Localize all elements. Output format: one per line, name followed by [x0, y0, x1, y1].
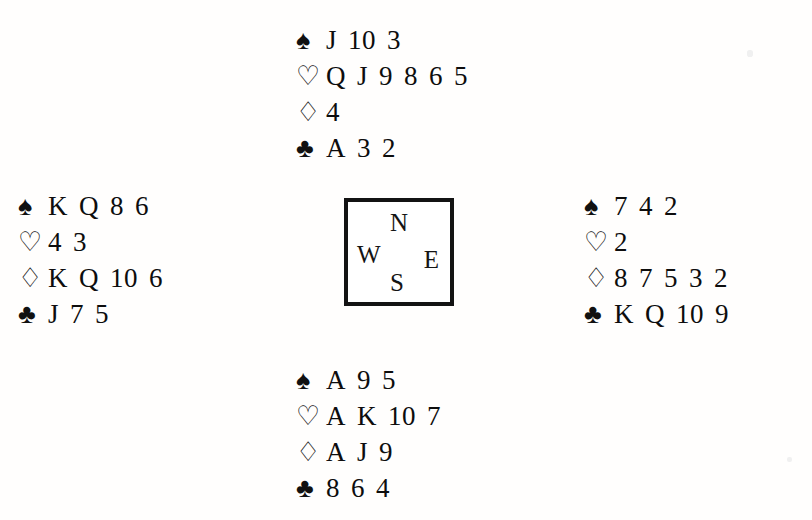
card-rank: 6	[149, 260, 163, 296]
club-suit-icon: ♣	[296, 130, 326, 166]
hand-north: ♠ J103 ♡ QJ9865 ♢ 4 ♣ A32	[296, 22, 468, 166]
card-rank: Q	[326, 58, 346, 94]
hand-north-clubs-ranks: A32	[326, 130, 396, 166]
card-rank: J	[48, 296, 59, 332]
card-rank: 4	[376, 470, 390, 506]
diamond-suit-icon: ♢	[296, 94, 326, 130]
card-rank: 8	[326, 470, 340, 506]
card-rank: 5	[95, 296, 109, 332]
scan-artifact	[747, 50, 753, 57]
card-rank: 9	[379, 434, 393, 470]
scan-artifact	[787, 457, 792, 462]
hand-east: ♠ 742 ♡ 2 ♢ 87532 ♣ KQ109	[584, 188, 729, 332]
card-rank: 9	[357, 362, 371, 398]
hand-south: ♠ A95 ♡ AK107 ♢ AJ9 ♣ 864	[296, 362, 441, 506]
hand-west-diamonds-row: ♢ KQ106	[18, 260, 163, 296]
hand-east-clubs-ranks: KQ109	[614, 296, 729, 332]
diamond-suit-icon: ♢	[18, 260, 48, 296]
hand-south-clubs-ranks: 864	[326, 470, 390, 506]
bridge-deal-diagram: ♠ J103 ♡ QJ9865 ♢ 4 ♣ A32 ♠ KQ86 ♡ 43 ♢ …	[0, 0, 812, 520]
card-rank: K	[357, 398, 377, 434]
card-rank: 4	[639, 188, 653, 224]
compass-east-label: E	[424, 247, 439, 272]
card-rank: A	[326, 434, 346, 470]
heart-suit-icon: ♡	[18, 224, 48, 260]
hand-east-clubs-row: ♣ KQ109	[584, 296, 729, 332]
card-rank: 8	[404, 58, 418, 94]
card-rank: 2	[614, 224, 628, 260]
card-rank: 5	[454, 58, 468, 94]
compass-south-label: S	[390, 270, 404, 295]
diamond-suit-icon: ♢	[296, 434, 326, 470]
card-rank: 9	[715, 296, 729, 332]
card-rank: 7	[70, 296, 84, 332]
card-rank: 3	[357, 130, 371, 166]
hand-south-diamonds-row: ♢ AJ9	[296, 434, 441, 470]
card-rank: 2	[714, 260, 728, 296]
hand-west-spades-ranks: KQ86	[48, 188, 149, 224]
hand-west-clubs-row: ♣ J75	[18, 296, 163, 332]
card-rank: 6	[135, 188, 149, 224]
diamond-suit-icon: ♢	[584, 260, 614, 296]
hand-north-spades-ranks: J103	[326, 22, 401, 58]
card-rank: 5	[382, 362, 396, 398]
hand-west-spades-row: ♠ KQ86	[18, 188, 163, 224]
card-rank: 8	[614, 260, 628, 296]
hand-west-diamonds-ranks: KQ106	[48, 260, 163, 296]
hand-east-diamonds-ranks: 87532	[614, 260, 728, 296]
club-suit-icon: ♣	[18, 296, 48, 332]
compass-north-label: N	[390, 210, 408, 235]
hand-east-diamonds-row: ♢ 87532	[584, 260, 729, 296]
heart-suit-icon: ♡	[296, 58, 326, 94]
hand-south-diamonds-ranks: AJ9	[326, 434, 393, 470]
card-rank: 6	[429, 58, 443, 94]
hand-south-clubs-row: ♣ 864	[296, 470, 441, 506]
spade-suit-icon: ♠	[296, 362, 326, 398]
card-rank: 4	[48, 224, 62, 260]
hand-east-spades-row: ♠ 742	[584, 188, 729, 224]
spade-suit-icon: ♠	[584, 188, 614, 224]
card-rank: 3	[387, 22, 401, 58]
card-rank: J	[357, 58, 368, 94]
card-rank: 10	[110, 260, 138, 296]
hand-north-diamonds-row: ♢ 4	[296, 94, 468, 130]
hand-west-hearts-ranks: 43	[48, 224, 87, 260]
heart-suit-icon: ♡	[296, 398, 326, 434]
hand-north-hearts-row: ♡ QJ9865	[296, 58, 468, 94]
card-rank: 2	[382, 130, 396, 166]
hand-north-spades-row: ♠ J103	[296, 22, 468, 58]
card-rank: 7	[614, 188, 628, 224]
card-rank: 5	[664, 260, 678, 296]
card-rank: 8	[110, 188, 124, 224]
card-rank: A	[326, 130, 346, 166]
card-rank: K	[614, 296, 634, 332]
hand-south-hearts-ranks: AK107	[326, 398, 441, 434]
card-rank: K	[48, 188, 68, 224]
hand-south-hearts-row: ♡ AK107	[296, 398, 441, 434]
card-rank: Q	[79, 260, 99, 296]
hand-east-hearts-row: ♡ 2	[584, 224, 729, 260]
hand-north-clubs-row: ♣ A32	[296, 130, 468, 166]
card-rank: A	[326, 362, 346, 398]
card-rank: 4	[326, 94, 340, 130]
hand-east-spades-ranks: 742	[614, 188, 678, 224]
card-rank: 10	[388, 398, 416, 434]
hand-west: ♠ KQ86 ♡ 43 ♢ KQ106 ♣ J75	[18, 188, 163, 332]
card-rank: 6	[351, 470, 365, 506]
card-rank: 3	[689, 260, 703, 296]
heart-suit-icon: ♡	[584, 224, 614, 260]
compass-box: N W E S	[344, 198, 454, 306]
hand-south-spades-row: ♠ A95	[296, 362, 441, 398]
club-suit-icon: ♣	[296, 470, 326, 506]
card-rank: 10	[676, 296, 704, 332]
spade-suit-icon: ♠	[296, 22, 326, 58]
card-rank: 7	[639, 260, 653, 296]
card-rank: Q	[79, 188, 99, 224]
card-rank: 10	[348, 22, 376, 58]
hand-south-spades-ranks: A95	[326, 362, 396, 398]
card-rank: J	[357, 434, 368, 470]
hand-north-diamonds-ranks: 4	[326, 94, 340, 130]
compass-west-label: W	[357, 242, 381, 267]
card-rank: J	[326, 22, 337, 58]
card-rank: K	[48, 260, 68, 296]
